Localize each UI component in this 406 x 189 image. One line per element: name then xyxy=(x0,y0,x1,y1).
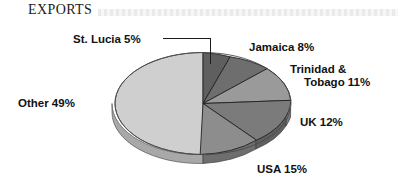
pie-chart: St. Lucia 5% Jamaica 8% Trinidad & Tobag… xyxy=(0,0,406,189)
st-lucia-leader-line-vertical xyxy=(210,38,211,64)
pie-chart-graphic xyxy=(0,0,406,189)
slice-label-uk: UK 12% xyxy=(300,116,343,129)
slice-label-st-lucia: St. Lucia 5% xyxy=(73,33,141,46)
slice-label-trinidad-tobago: Trinidad & Tobago 11% xyxy=(290,63,400,89)
st-lucia-leader-line-horizontal xyxy=(163,38,211,39)
slice-label-trinidad-line1: Trinidad & xyxy=(290,63,346,75)
slice-label-usa: USA 15% xyxy=(257,163,307,176)
slice-label-other: Other 49% xyxy=(18,97,75,110)
slice-label-trinidad-line2: Tobago 11% xyxy=(290,76,400,89)
slice-label-jamaica: Jamaica 8% xyxy=(249,41,314,54)
